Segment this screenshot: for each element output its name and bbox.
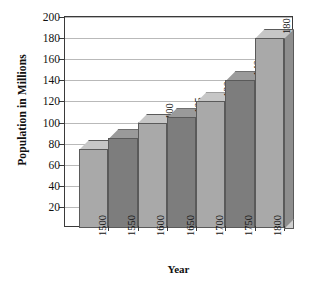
- x-tick-mark: [196, 226, 197, 231]
- y-axis-title: Population in Millions: [16, 30, 28, 190]
- x-axis-title: Year: [64, 263, 293, 275]
- population-bar-chart: Population in Millions 20406080100120140…: [0, 0, 309, 282]
- y-tick-label: 40: [49, 180, 61, 192]
- x-tick-label: 1500: [97, 215, 108, 236]
- y-tick-label: 200: [43, 11, 60, 23]
- x-tick-label: 1750: [243, 215, 254, 236]
- x-tick-mark: [255, 226, 256, 231]
- bar-value-label: 180: [281, 18, 292, 34]
- bar-front-face: [255, 38, 284, 228]
- y-tick-label: 180: [43, 32, 60, 44]
- y-tick-label: 20: [49, 201, 61, 213]
- y-tick-label: 160: [43, 53, 60, 65]
- bar-front-face: [138, 123, 167, 229]
- bar-side-face: [284, 29, 294, 228]
- y-tick-label: 100: [43, 117, 60, 129]
- x-tick-mark: [138, 226, 139, 231]
- bar-front-face: [225, 80, 254, 228]
- y-tick-label: 120: [43, 95, 60, 107]
- x-tick-mark: [284, 226, 285, 231]
- bar-front-face: [196, 101, 225, 228]
- x-tick-label: 1550: [126, 215, 137, 236]
- y-tick-label: 140: [43, 74, 60, 86]
- x-tick-label: 1650: [185, 215, 196, 236]
- x-tick-label: 1800: [272, 215, 283, 236]
- y-tick-label: 80: [49, 138, 61, 150]
- bar: [255, 17, 294, 228]
- y-tick-label: 60: [49, 159, 61, 171]
- bar-front-face: [167, 117, 196, 228]
- plot-area: 20406080100120140160180200 1001051201401…: [64, 16, 293, 227]
- x-tick-mark: [167, 226, 168, 231]
- plot-inner: 20406080100120140160180200 1001051201401…: [65, 17, 292, 226]
- x-tick-mark: [108, 226, 109, 231]
- x-tick-label: 1700: [214, 215, 225, 236]
- x-tick-label: 1600: [155, 215, 166, 236]
- x-tick-mark: [225, 226, 226, 231]
